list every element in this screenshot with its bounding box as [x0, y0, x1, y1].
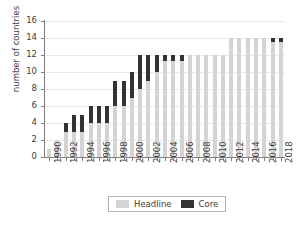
- bar-1991: [55, 21, 59, 157]
- bar-1992: [64, 21, 68, 157]
- bar-2003: [155, 21, 159, 157]
- bar-1998: [113, 21, 117, 157]
- plot-area: [45, 21, 285, 157]
- x-tick-mark: [107, 157, 108, 161]
- bar-2016: [262, 21, 266, 157]
- x-tick-mark: [256, 157, 257, 161]
- bar-segment-core: [271, 38, 275, 42]
- x-tick-mark: [99, 157, 100, 161]
- x-tick-mark: [115, 157, 116, 161]
- bar-2004: [163, 21, 167, 157]
- x-tick-mark: [91, 157, 92, 161]
- bar-2011: [221, 21, 225, 157]
- x-tick-mark: [190, 157, 191, 161]
- bar-segment-headline: [229, 38, 233, 157]
- bar-segment-core: [122, 81, 126, 107]
- x-tick-mark: [165, 157, 166, 161]
- bar-2002: [146, 21, 150, 157]
- x-tick-mark: [132, 157, 133, 161]
- bar-chart: number of countries 0246810121416 199019…: [0, 0, 297, 226]
- bar-1990: [47, 21, 51, 157]
- x-tick-mark: [198, 157, 199, 161]
- x-tick-mark: [66, 157, 67, 161]
- bar-segment-core: [80, 115, 84, 132]
- bar-segment-headline: [213, 55, 217, 157]
- bar-segment-core: [180, 55, 184, 61]
- x-tick-mark: [206, 157, 207, 161]
- y-tick-label: 6: [32, 100, 37, 111]
- legend-label: Headline: [134, 199, 172, 209]
- bar-1995: [89, 21, 93, 157]
- bar-2013: [237, 21, 241, 157]
- bar-segment-headline: [47, 149, 51, 158]
- x-tick-mark: [182, 157, 183, 161]
- legend-item-headline: Headline: [116, 199, 172, 209]
- bar-1999: [122, 21, 126, 157]
- bar-1994: [80, 21, 84, 157]
- x-tick-mark: [140, 157, 141, 161]
- y-tick-label: 10: [26, 66, 37, 77]
- bar-segment-headline: [271, 42, 275, 157]
- x-tick-mark: [223, 157, 224, 161]
- bar-segment-headline: [130, 98, 134, 158]
- x-tick-mark: [281, 157, 282, 161]
- bar-2014: [246, 21, 250, 157]
- chart-legend: HeadlineCore: [108, 196, 226, 212]
- x-tick-mark: [231, 157, 232, 161]
- y-tick-label: 8: [32, 83, 37, 94]
- bar-segment-headline: [237, 38, 241, 157]
- x-tick-mark: [264, 157, 265, 161]
- x-tick-mark: [215, 157, 216, 161]
- bar-segment-core: [72, 115, 76, 132]
- x-tick-mark: [157, 157, 158, 161]
- y-tick-label: 14: [26, 32, 37, 43]
- bar-segment-core: [138, 55, 142, 89]
- bar-segment-core: [105, 106, 109, 123]
- bar-segment-core: [130, 72, 134, 98]
- bar-1996: [97, 21, 101, 157]
- y-axis-title: number of countries: [11, 0, 21, 109]
- bar-2018: [279, 21, 283, 157]
- bar-segment-core: [89, 106, 93, 123]
- legend-item-core: Core: [181, 199, 219, 209]
- bar-segment-headline: [163, 61, 167, 157]
- bar-segment-core: [113, 81, 117, 107]
- y-tick-label: 4: [32, 117, 37, 128]
- x-tick-mark: [273, 157, 274, 161]
- bar-segment-core: [279, 38, 283, 42]
- bar-segment-headline: [64, 132, 68, 158]
- bar-2000: [130, 21, 134, 157]
- x-tick-mark: [74, 157, 75, 161]
- bar-segment-core: [171, 55, 175, 61]
- legend-swatch-headline-icon: [116, 200, 129, 208]
- bar-segment-headline: [254, 38, 258, 157]
- x-tick-mark: [124, 157, 125, 161]
- y-tick-label: 2: [32, 134, 37, 145]
- bar-2006: [180, 21, 184, 157]
- bar-1993: [72, 21, 76, 157]
- bar-segment-headline: [262, 38, 266, 157]
- bar-segment-headline: [97, 123, 101, 157]
- bar-segment-core: [163, 55, 167, 61]
- bar-2012: [229, 21, 233, 157]
- bar-2009: [204, 21, 208, 157]
- legend-label: Core: [199, 199, 219, 209]
- x-tick-mark: [173, 157, 174, 161]
- legend-swatch-core-icon: [181, 200, 194, 208]
- bar-segment-core: [64, 123, 68, 132]
- bar-segment-headline: [279, 42, 283, 157]
- x-tick-mark: [239, 157, 240, 161]
- bar-segment-headline: [196, 55, 200, 157]
- y-tick-label: 12: [26, 49, 37, 60]
- bar-1997: [105, 21, 109, 157]
- y-tick-label: 0: [32, 151, 37, 162]
- x-tick-mark: [148, 157, 149, 161]
- bar-segment-headline: [113, 106, 117, 157]
- x-tick-mark: [49, 157, 50, 161]
- bar-2007: [188, 21, 192, 157]
- bar-2015: [254, 21, 258, 157]
- bar-2005: [171, 21, 175, 157]
- bar-2017: [271, 21, 275, 157]
- bar-2010: [213, 21, 217, 157]
- bar-segment-core: [155, 55, 159, 72]
